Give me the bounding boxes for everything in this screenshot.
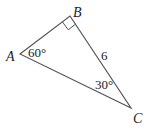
right-angle-mark [62,22,75,30]
side-label-bc: 6 [101,48,108,63]
triangle-svg: A B C 60° 30° 6 [0,0,153,129]
vertex-label-c: C [133,111,143,126]
triangle-abc [20,16,131,108]
angle-label-a: 60° [28,45,46,60]
angle-label-c: 30° [95,77,113,92]
vertex-label-b: B [73,5,82,20]
vertex-label-a: A [5,49,15,64]
triangle-diagram: A B C 60° 30° 6 [0,0,153,129]
